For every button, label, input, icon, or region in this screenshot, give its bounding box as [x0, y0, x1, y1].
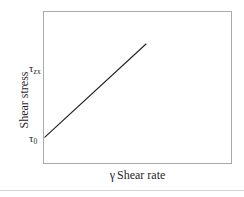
- gamma-symbol: γ: [110, 168, 115, 182]
- bottom-divider: [0, 190, 244, 191]
- tau-subscript: zx: [33, 67, 40, 76]
- x-axis-title-text: Shear rate: [117, 168, 165, 182]
- y-tick-label-tau-zero: τ0: [29, 133, 37, 146]
- y-axis-title: Shear stress: [18, 35, 30, 165]
- rheogram-figure: τzx τ0 Shear stress γShear rate: [0, 0, 244, 197]
- x-axis-title: γShear rate: [43, 169, 232, 181]
- flow-curve-line: [45, 44, 146, 137]
- tau-subscript: 0: [33, 137, 37, 146]
